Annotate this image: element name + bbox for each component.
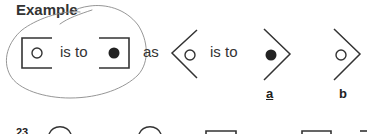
circle-icon	[49, 127, 71, 134]
filled-circle-icon	[109, 48, 120, 59]
square-icon	[206, 131, 236, 134]
open-circle-icon	[185, 50, 195, 60]
open-circle-icon	[336, 50, 346, 60]
term3-left-chevron	[172, 30, 197, 78]
open-circle-icon	[32, 48, 42, 58]
next-question-shapes	[49, 127, 367, 134]
option-a-right-chevron[interactable]	[264, 29, 290, 80]
square-icon	[302, 131, 331, 134]
connector-as: as	[143, 43, 159, 60]
connector-is-to-1: is to	[60, 43, 88, 60]
question-number: 23	[16, 126, 28, 134]
figure-shapes	[0, 0, 367, 134]
connector-is-to-2: is to	[210, 43, 238, 60]
term2-close-bracket-square	[99, 38, 129, 68]
option-b-label[interactable]: b	[339, 86, 347, 101]
term1-open-bracket-square	[22, 38, 52, 68]
option-b-right-chevron[interactable]	[334, 29, 360, 80]
circle-icon	[139, 127, 161, 134]
filled-circle-icon	[266, 50, 277, 61]
option-a-label[interactable]: a	[266, 86, 273, 101]
